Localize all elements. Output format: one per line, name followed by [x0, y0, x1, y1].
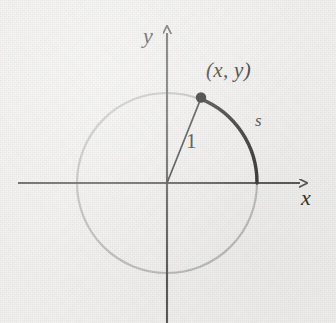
y-axis-label: y — [143, 25, 153, 47]
point-coordinates-label: (x, y) — [206, 60, 251, 81]
radius-length-label: 1 — [186, 131, 197, 152]
diagram-canvas — [0, 0, 336, 323]
arc-length-label: s — [255, 112, 262, 129]
x-axis-label: x — [301, 187, 311, 209]
terminal-point-dot — [196, 92, 206, 102]
arc-segment-s — [201, 99, 257, 183]
unit-circle-figure: y x (x, y) s 1 — [0, 0, 336, 323]
